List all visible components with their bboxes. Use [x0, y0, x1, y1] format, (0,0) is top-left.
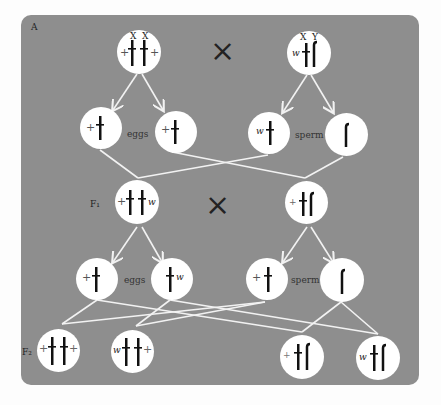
chromosome-label-x1: X [130, 31, 136, 41]
sperm-label: sperm [295, 130, 324, 140]
y-chromosome-icon [325, 113, 368, 156]
allele-label: + [252, 271, 261, 284]
chromosome-label-x2: X [142, 31, 148, 41]
f2-label: F₂ [22, 347, 32, 357]
allele-label: w [256, 126, 264, 136]
allele-label: + [283, 350, 291, 360]
allele-label: + [143, 343, 152, 356]
allele-label: + [69, 342, 78, 355]
allele-label: + [150, 46, 159, 59]
allele-label: w [113, 345, 121, 355]
allele-label: + [289, 197, 297, 207]
eggs-label: eggs [127, 129, 148, 139]
x-chromosome-icon [248, 112, 290, 154]
allele-label: w [292, 48, 300, 58]
allele-label: w [148, 197, 156, 207]
y-chromosome-icon [320, 258, 364, 302]
allele-label: w [359, 352, 367, 362]
allele-label: + [82, 271, 91, 284]
allele-label: + [39, 342, 48, 355]
sperm-label: sperm [291, 275, 320, 285]
allele-label: + [86, 121, 95, 134]
eggs-label: eggs [124, 275, 145, 285]
chromosome-label-y: Y [312, 32, 318, 42]
allele-label: + [161, 123, 170, 136]
chromosome-label-x: X [300, 32, 306, 42]
cross-symbol-p: × [210, 36, 235, 66]
f1-label: F₁ [90, 199, 100, 209]
cross-symbol-f1: × [205, 190, 230, 220]
x-chromosome-icon [151, 258, 193, 300]
panel-label: A [31, 22, 38, 32]
allele-label: + [120, 46, 129, 59]
allele-label: w [176, 272, 184, 282]
allele-label: + [117, 195, 126, 208]
